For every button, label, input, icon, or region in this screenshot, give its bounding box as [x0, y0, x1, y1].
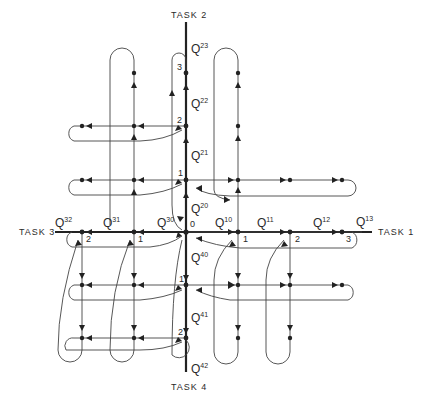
- loop-left-row-t2n1: [69, 180, 186, 195]
- node-task4-1: [184, 283, 189, 288]
- arrow-left-icon: [86, 123, 92, 129]
- arrow-diag-icon: [196, 236, 202, 242]
- node: [236, 178, 240, 182]
- arrow-up-icon: [183, 137, 189, 143]
- loop-right-row-t2n1: [186, 180, 356, 196]
- node-label-task4-2: 2: [178, 327, 183, 337]
- axis-label-task2: TASK 2: [171, 10, 207, 20]
- axis-label-task4: TASK 4: [171, 382, 207, 392]
- loop-left-row-t4n1: [69, 285, 186, 300]
- arrow-diag-icon: [196, 287, 202, 293]
- state-label-q11: Q11: [257, 216, 274, 230]
- node: [236, 336, 240, 340]
- node: [288, 178, 292, 182]
- loop-left-row-axis: [67, 232, 182, 247]
- arrow-left-icon: [86, 282, 92, 288]
- loop-down-col-t1n2: [266, 232, 290, 364]
- node: [288, 283, 292, 287]
- node: [132, 336, 136, 340]
- node-task2-2: [184, 124, 189, 129]
- arrow-up-icon: [183, 84, 189, 90]
- node-task3-2: [80, 230, 85, 235]
- node: [132, 124, 136, 128]
- arrow-right-icon: [280, 177, 286, 183]
- arrow-right-icon: [332, 282, 338, 288]
- arrow-up-icon: [131, 189, 137, 195]
- axis-label-task1: TASK 1: [378, 227, 414, 237]
- arrow-up-icon: [235, 82, 241, 88]
- node-task4-2: [184, 336, 189, 341]
- node-task2-3: [184, 71, 189, 76]
- arrow-diag-icon: [127, 240, 134, 246]
- arrow-right-icon: [332, 229, 338, 235]
- loop-right-row-axis: [186, 232, 362, 248]
- node: [236, 71, 240, 75]
- node-label-task4-1: 1: [179, 274, 184, 284]
- arrow-down-icon: [183, 328, 189, 334]
- arrow-right-icon: [228, 281, 235, 289]
- state-label-q42: Q42: [191, 362, 208, 376]
- node-label-task3-2: 2: [86, 234, 91, 244]
- arrow-left-icon: [86, 177, 92, 183]
- node-label-task2-3: 3: [177, 62, 182, 72]
- node-task3-1: [132, 230, 137, 235]
- arrow-down-icon: [235, 273, 241, 279]
- loop-right-row-t4n1: [186, 285, 353, 300]
- arrow-down-icon: [79, 273, 85, 279]
- node: [80, 178, 84, 182]
- node-label-task1-2: 2: [295, 234, 300, 244]
- arrow-left-icon: [138, 282, 144, 288]
- loop-down-col-t3n1: [110, 232, 134, 362]
- node: [80, 336, 84, 340]
- node-origin: [183, 229, 188, 234]
- loop-left-row-t2n2: [69, 126, 186, 141]
- arrow-right-icon: [332, 177, 338, 183]
- state-label-q10: Q10: [215, 216, 232, 230]
- arrow-down-icon: [131, 273, 137, 279]
- arrow-up-icon: [183, 192, 189, 198]
- node: [288, 336, 292, 340]
- state-label-q30: Q30: [157, 216, 174, 230]
- state-label-q31: Q31: [103, 216, 120, 230]
- node-label-task1-1: 1: [243, 234, 248, 244]
- task-state-transition-diagram: TASK 2 TASK 4 TASK 1 TASK 3: [0, 0, 422, 394]
- node: [132, 283, 136, 287]
- arrow-right-icon: [280, 229, 286, 235]
- state-label-q41: Q41: [191, 311, 208, 325]
- origin-label: 0: [190, 219, 195, 229]
- arrow-up-icon: [235, 135, 241, 141]
- node-label-task3-1: 1: [138, 234, 143, 244]
- arrow-up-icon: [131, 82, 137, 88]
- node: [340, 283, 344, 287]
- state-label-q22: Q22: [191, 97, 208, 111]
- state-label-q40: Q40: [191, 251, 208, 265]
- node-task1-2: [288, 230, 293, 235]
- arrow-diag-icon: [224, 196, 230, 203]
- arrow-diag-icon: [196, 185, 202, 192]
- node-task1-1: [236, 230, 241, 235]
- loop-up-col-t3n1: [110, 48, 134, 232]
- node: [80, 283, 84, 287]
- state-label-q21: Q21: [191, 149, 208, 163]
- arrow-left-icon: [138, 123, 144, 129]
- arrow-down-icon: [287, 325, 293, 331]
- arrow-right-icon: [280, 282, 286, 288]
- arrow-left-icon: [86, 335, 92, 341]
- node-label-task2-2: 2: [177, 115, 182, 125]
- state-label-q32: Q32: [55, 216, 72, 230]
- arrow-down-icon: [131, 325, 137, 331]
- arrow-up-icon: [169, 90, 175, 96]
- node: [132, 71, 136, 75]
- node-label-task1-3: 3: [346, 234, 351, 244]
- node: [80, 124, 84, 128]
- node: [340, 178, 344, 182]
- arrow-right-icon: [228, 229, 234, 235]
- arrow-down-icon: [287, 273, 293, 279]
- node: [236, 124, 240, 128]
- node: [132, 178, 136, 182]
- arrow-left-icon: [138, 177, 144, 183]
- arrow-down-icon: [79, 325, 85, 331]
- loop-up-col-t1n1: [214, 48, 238, 232]
- arrow-up-icon: [131, 134, 137, 140]
- arrow-diag-icon: [177, 216, 184, 222]
